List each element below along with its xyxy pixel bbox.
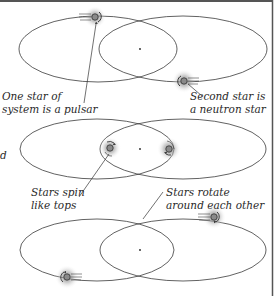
diagram-canvas: [0, 0, 275, 296]
pulsar-label-line-2: system is a pulsar: [2, 103, 80, 116]
pulsar-star: [79, 6, 106, 28]
edge-text-fragment: d: [0, 149, 7, 162]
spin-label: Stars spin like tops: [31, 186, 85, 212]
pulsar-label-line-1: One star of: [2, 90, 80, 103]
spin-label-line-2: like tops: [31, 199, 85, 212]
rotate-label-line-2: around each other: [166, 199, 264, 212]
neutron-label-line-2: a neutron star: [190, 103, 260, 116]
orbit-left: [20, 119, 174, 179]
spinning-star-left: [99, 137, 121, 159]
orbit-right: [100, 219, 266, 281]
panel-2-orbits: [20, 119, 266, 179]
orbit-right: [100, 119, 266, 179]
orbiting-star-lower: [55, 265, 82, 289]
spinning-star-right: [157, 137, 181, 161]
pulsar-label: One star of system is a pulsar: [2, 90, 80, 116]
orbit-left: [20, 219, 174, 281]
neutron-star-label: Second star is a neutron star: [190, 90, 260, 116]
rotate-label-line-1: Stars rotate: [166, 186, 264, 199]
spin-label-line-1: Stars spin: [31, 186, 85, 199]
center-of-mass-dot: [139, 48, 141, 50]
center-of-mass-dot: [139, 249, 141, 251]
rotate-leader-line: [143, 192, 163, 219]
pulsar-leader-line: [84, 24, 96, 103]
panel-1-orbits: [19, 16, 267, 82]
neutron-label-line-1: Second star is: [190, 90, 260, 103]
rotate-label: Stars rotate around each other: [166, 186, 264, 212]
binary-pulsar-diagram: One star of system is a pulsar Second st…: [0, 0, 275, 296]
center-of-mass-dot: [139, 148, 141, 150]
